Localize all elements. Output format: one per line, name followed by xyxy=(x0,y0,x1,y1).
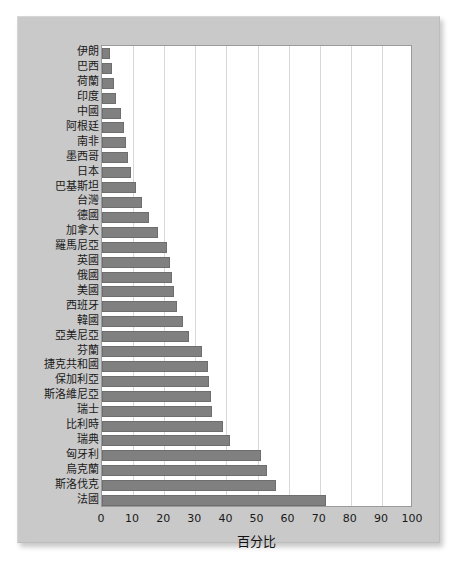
category-label: 荷蘭 xyxy=(3,76,99,87)
category-label: 巴西 xyxy=(3,61,99,72)
category-label: 德國 xyxy=(3,210,99,221)
category-label: 斯洛伐克 xyxy=(3,479,99,490)
category-label: 韓國 xyxy=(3,315,99,326)
bar xyxy=(102,197,142,208)
gridline xyxy=(258,46,259,506)
category-label: 南非 xyxy=(3,136,99,147)
bar xyxy=(102,167,131,178)
category-label: 法國 xyxy=(3,494,99,505)
category-label: 中國 xyxy=(3,106,99,117)
x-tick-label: 20 xyxy=(156,512,170,525)
x-tick-label: 90 xyxy=(374,512,388,525)
category-label: 羅馬尼亞 xyxy=(3,240,99,251)
x-tick-label: 80 xyxy=(343,512,357,525)
bar xyxy=(102,376,209,387)
bar xyxy=(102,346,202,357)
gridline xyxy=(289,46,290,506)
bar xyxy=(102,48,110,59)
bar xyxy=(102,227,158,238)
bar xyxy=(102,242,167,253)
bar xyxy=(102,286,174,297)
category-label: 俄國 xyxy=(3,270,99,281)
x-axis-title: 百分比 xyxy=(101,531,412,550)
plot-area xyxy=(101,45,412,507)
category-label: 亞美尼亞 xyxy=(3,330,99,341)
bar xyxy=(102,93,116,104)
category-label: 匈牙利 xyxy=(3,449,99,460)
bar xyxy=(102,152,128,163)
bar xyxy=(102,137,126,148)
category-label: 墨西哥 xyxy=(3,151,99,162)
bar xyxy=(102,495,326,506)
category-label: 美國 xyxy=(3,285,99,296)
x-tick-label: 100 xyxy=(402,512,423,525)
category-label: 斯洛維尼亞 xyxy=(3,389,99,400)
category-label: 伊朗 xyxy=(3,46,99,57)
bar xyxy=(102,301,177,312)
bar xyxy=(102,316,183,327)
bar xyxy=(102,108,121,119)
category-label: 印度 xyxy=(3,91,99,102)
bar xyxy=(102,63,112,74)
bar xyxy=(102,391,211,402)
x-tick-label: 0 xyxy=(98,512,105,525)
category-axis-labels: 伊朗巴西荷蘭印度中國阿根廷南非墨西哥日本巴基斯坦台灣德國加拿大羅馬尼亞英國俄國美… xyxy=(0,45,99,507)
bar xyxy=(102,450,261,461)
gridline xyxy=(382,46,383,506)
category-label: 烏克蘭 xyxy=(3,464,99,475)
category-label: 英國 xyxy=(3,255,99,266)
bar xyxy=(102,331,189,342)
category-label: 阿根廷 xyxy=(3,121,99,132)
x-tick-label: 10 xyxy=(125,512,139,525)
bar xyxy=(102,78,114,89)
category-label: 比利時 xyxy=(3,419,99,430)
category-label: 保加利亞 xyxy=(3,374,99,385)
bar xyxy=(102,480,276,491)
gridline xyxy=(320,46,321,506)
category-label: 巴基斯坦 xyxy=(3,181,99,192)
bar xyxy=(102,465,267,476)
x-tick-label: 70 xyxy=(312,512,326,525)
bar xyxy=(102,361,208,372)
category-label: 瑞士 xyxy=(3,404,99,415)
gridline xyxy=(351,46,352,506)
bar xyxy=(102,272,172,283)
bar xyxy=(102,212,149,223)
x-tick-label: 30 xyxy=(187,512,201,525)
bar xyxy=(102,435,230,446)
bar xyxy=(102,257,170,268)
x-tick-label: 50 xyxy=(250,512,264,525)
category-label: 日本 xyxy=(3,166,99,177)
bar xyxy=(102,421,223,432)
bar xyxy=(102,406,212,417)
category-label: 捷克共和國 xyxy=(3,359,99,370)
category-label: 芬蘭 xyxy=(3,345,99,356)
bar xyxy=(102,122,124,133)
category-label: 加拿大 xyxy=(3,225,99,236)
category-label: 西班牙 xyxy=(3,300,99,311)
category-label: 瑞典 xyxy=(3,434,99,445)
x-tick-label: 40 xyxy=(218,512,232,525)
bar xyxy=(102,182,136,193)
chart-screenshot: 伊朗巴西荷蘭印度中國阿根廷南非墨西哥日本巴基斯坦台灣德國加拿大羅馬尼亞英國俄國美… xyxy=(0,0,458,578)
category-label: 台灣 xyxy=(3,195,99,206)
x-tick-label: 60 xyxy=(281,512,295,525)
